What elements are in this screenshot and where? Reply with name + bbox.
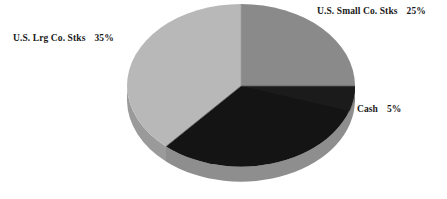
slice-label-cash-percent: 5% [387,104,401,114]
pie-chart-figure: U.S. Small Co. Stks25% U.S. Lrg Co. Stks… [0,0,447,199]
slice-label-us-large-percent: 35% [94,33,113,43]
slice-label-cash-name: Cash [357,104,378,114]
slice-label-us-lrg-co-stks: U.S. Lrg Co. Stks35% [13,33,114,44]
slice-label-us-small-percent: 25% [407,6,426,16]
slice-label-us-small-name: U.S. Small Co. Stks [317,6,398,16]
slice-label-us-small-co-stks: U.S. Small Co. Stks25% [317,6,426,17]
slice-label-us-large-name: U.S. Lrg Co. Stks [13,33,85,43]
slice-label-cash: Cash5% [357,104,401,115]
pie-chart-graphic [0,0,447,199]
